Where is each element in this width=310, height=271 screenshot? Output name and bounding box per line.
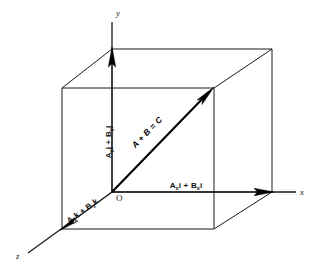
svg-text:Azk+Bzk: Azk+Bzk <box>65 196 101 226</box>
box-right-face <box>214 49 272 229</box>
y-label-a-unit: j <box>104 147 113 150</box>
z-component-label: Azk+Bzk <box>65 196 101 226</box>
y-label-plus: + <box>104 139 113 144</box>
vector-addition-figure: y x z O Ayj+Byj Axi+Bxi Azk+Bzk A + B = … <box>0 0 310 271</box>
resultant-vector <box>112 87 214 192</box>
y-label-b-unit: j <box>104 126 113 129</box>
resultant-vector-label: A + B = C <box>129 114 165 151</box>
x-label-plus: + <box>184 181 189 190</box>
x-axis-label: x <box>299 187 304 197</box>
svg-text:Axi+Bxi: Axi+Bxi <box>170 181 203 191</box>
svg-text:Ayj+Byj: Ayj+Byj <box>104 126 114 159</box>
z-axis-label: z <box>15 251 20 261</box>
vector-diagram-canvas: y x z O Ayj+Byj Axi+Bxi Azk+Bzk A + B = … <box>0 0 310 271</box>
y-axis-label: y <box>115 8 120 18</box>
y-component-label: Ayj+Byj <box>104 126 114 159</box>
x-label-a-unit: i <box>179 181 181 190</box>
box-top-face <box>62 49 272 88</box>
x-component-label: Axi+Bxi <box>170 181 203 191</box>
resultant-vector-line <box>112 93 208 192</box>
x-label-b-unit: i <box>200 181 202 190</box>
origin-label: O <box>116 193 123 203</box>
